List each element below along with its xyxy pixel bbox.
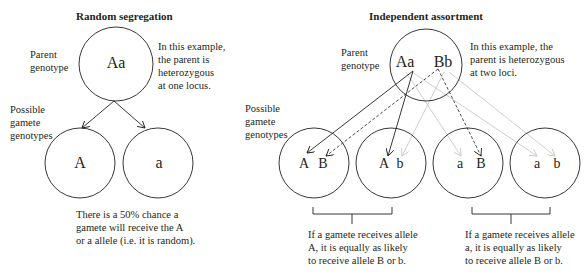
gamete-a: a xyxy=(155,154,162,172)
arrow-b-to-ab xyxy=(449,72,555,156)
gamete-circle-Ab xyxy=(356,128,426,198)
title-random-segregation: Random segregation xyxy=(76,10,173,22)
arrow-b-to-Ab xyxy=(402,72,444,156)
arrow-B-to-aB xyxy=(438,69,481,156)
caption-line: A, it is equally as likely xyxy=(308,241,418,254)
gamete-AB-second: B xyxy=(318,156,327,172)
gamete-label-line: Possible xyxy=(10,103,53,116)
gamete-circle-aB xyxy=(433,128,503,198)
caption-line: There is a 50% chance a xyxy=(76,208,195,221)
gamete-ab-first: a xyxy=(534,156,540,172)
gamete-label-line: genotypes xyxy=(10,129,53,142)
note-line: parent is heterozygous xyxy=(470,53,564,66)
title-independent-assortment: Independent assortment xyxy=(369,10,483,22)
caption-allele-a: If a gamete receives allele a, it is equ… xyxy=(465,228,575,267)
bracket-left xyxy=(313,207,392,224)
note-line: heterozygous xyxy=(158,66,225,79)
note-line: In this example, xyxy=(158,40,225,53)
caption-line: If a gamete receives allele xyxy=(308,228,418,241)
gamete-Ab-second: b xyxy=(397,156,404,172)
parent-genotype-aa: Aa xyxy=(107,54,126,72)
caption-line: to receive allele B or b. xyxy=(465,254,575,267)
parent-label-left: Parent genotype xyxy=(30,48,69,74)
note-line: at one locus. xyxy=(158,79,225,92)
gamete-Ab-first: A xyxy=(379,156,389,172)
gamete-ab-second: b xyxy=(554,156,561,172)
gamete-circle-AB xyxy=(279,128,349,198)
note-two-loci: In this example, the parent is heterozyg… xyxy=(470,40,564,79)
caption-line: to receive allele B or b. xyxy=(308,254,418,267)
caption-line: gamete will receive the A xyxy=(76,221,195,234)
gamete-circle-ab xyxy=(510,128,580,198)
note-line: the parent is xyxy=(158,53,225,66)
parent-label-line: Parent xyxy=(30,48,69,61)
parent-allele-bb: Bb xyxy=(434,53,453,71)
note-line: In this example, the xyxy=(470,40,564,53)
parent-label-line: Parent xyxy=(341,46,380,59)
parent-label-line: genotype xyxy=(30,61,69,74)
gamete-AB-first: A xyxy=(299,156,309,172)
gamete-A: A xyxy=(74,154,86,172)
caption-line: If a gamete receives allele xyxy=(465,228,575,241)
gamete-aB-first: a xyxy=(457,156,463,172)
arrow-to-A xyxy=(82,101,114,128)
parent-label-line: genotype xyxy=(341,59,380,72)
gamete-aB-second: B xyxy=(476,156,485,172)
note-one-locus: In this example, the parent is heterozyg… xyxy=(158,40,225,92)
gamete-label-line: genotypes xyxy=(245,128,288,141)
parent-allele-aa: Aa xyxy=(396,53,415,71)
gamete-label-line: Possible xyxy=(245,102,288,115)
gamete-label-left: Possible gamete genotypes xyxy=(10,103,53,142)
arrow-A-to-Ab xyxy=(388,71,413,156)
arrow-to-a xyxy=(114,101,145,128)
arrow-A-to-AB xyxy=(307,71,413,153)
caption-line: or a allele (i.e. it is random). xyxy=(76,234,195,247)
gamete-label-right: Possible gamete genotypes xyxy=(245,102,288,141)
parent-label-right: Parent genotype xyxy=(341,46,380,72)
note-line: at two loci. xyxy=(470,66,564,79)
bracket-right xyxy=(472,207,550,224)
caption-random: There is a 50% chance a gamete will rece… xyxy=(76,208,195,247)
gamete-label-line: gamete xyxy=(245,115,288,128)
caption-line: a, it is equally as likely xyxy=(465,241,575,254)
caption-allele-A: If a gamete receives allele A, it is equ… xyxy=(308,228,418,267)
gamete-label-line: gamete xyxy=(10,116,53,129)
arrow-a-to-aB xyxy=(406,72,461,156)
